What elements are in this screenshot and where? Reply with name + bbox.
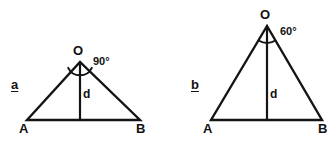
figure-b-apex-label: O — [260, 8, 270, 21]
figure-b-right-vertex-label: B — [318, 122, 327, 135]
figure-a-case-label: a — [11, 78, 18, 91]
figure-b-lines — [211, 26, 322, 120]
figure-b-angle-label: 60° — [280, 26, 297, 37]
figure-a-height-label: d — [83, 88, 90, 100]
figure-b-left-vertex-label: A — [203, 122, 212, 135]
figure-a-right-vertex-label: B — [136, 122, 145, 135]
geometry-drawing — [0, 0, 336, 144]
figure-a-left-vertex-label: A — [19, 122, 28, 135]
figure-a-angle-label: 90° — [93, 56, 110, 67]
clipped-caption-strip — [0, 136, 336, 144]
figure-canvas: O 90° d A B a O 60° d A B b — [0, 0, 336, 144]
figure-a-apex-label: O — [73, 44, 83, 57]
figure-b-height-label: d — [270, 88, 277, 100]
figure-b-case-label: b — [191, 78, 199, 91]
